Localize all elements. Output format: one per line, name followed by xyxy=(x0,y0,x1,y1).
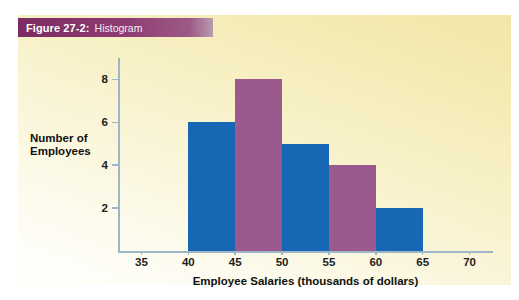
y-axis-title-line-2: Employees xyxy=(30,145,110,158)
histogram-bars xyxy=(0,0,519,251)
x-tick-35 xyxy=(141,251,143,255)
x-tick-label-40: 40 xyxy=(171,256,205,268)
x-tick-40 xyxy=(188,251,190,255)
x-tick-label-65: 65 xyxy=(406,256,440,268)
x-tick-55 xyxy=(328,251,330,255)
x-tick-label-70: 70 xyxy=(453,256,487,268)
y-axis-title-line-1: Number of xyxy=(30,132,110,145)
x-tick-65 xyxy=(422,251,424,255)
x-tick-label-50: 50 xyxy=(265,256,299,268)
x-tick-label-45: 45 xyxy=(218,256,252,268)
x-tick-60 xyxy=(375,251,377,255)
x-tick-label-55: 55 xyxy=(312,256,346,268)
chart-plot-area: 2468 3540455055606570 Number of Employee… xyxy=(0,0,519,300)
histogram-bar-55-60 xyxy=(329,165,376,251)
histogram-bar-50-55 xyxy=(282,144,329,251)
histogram-bar-60-65 xyxy=(376,208,423,251)
histogram-bar-40-45 xyxy=(188,122,235,251)
x-tick-50 xyxy=(281,251,283,255)
figure-root: Figure 27-2: Histogram 2468 354045505560… xyxy=(0,0,519,300)
x-axis-title: Employee Salaries (thousands of dollars) xyxy=(118,275,493,287)
x-tick-70 xyxy=(469,251,471,255)
x-axis-line xyxy=(118,251,493,253)
x-tick-45 xyxy=(234,251,236,255)
histogram-bar-45-50 xyxy=(235,79,282,251)
x-tick-label-60: 60 xyxy=(359,256,393,268)
y-axis-title: Number of Employees xyxy=(30,132,110,158)
x-tick-label-35: 35 xyxy=(124,256,158,268)
